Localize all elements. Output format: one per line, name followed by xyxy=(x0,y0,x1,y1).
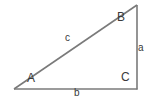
vertex-label-b: B xyxy=(117,11,125,23)
vertex-label-a: A xyxy=(27,72,35,84)
side-label-b: b xyxy=(74,88,80,98)
vertex-label-c: C xyxy=(121,71,130,83)
side-label-a: a xyxy=(138,43,144,53)
side-label-c: c xyxy=(65,33,70,43)
triangle-figure: B C A a b c xyxy=(0,0,152,105)
